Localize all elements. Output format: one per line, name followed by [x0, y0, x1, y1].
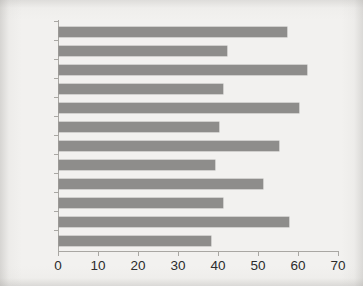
- x-axis-tick: [338, 251, 339, 256]
- y-axis-tick: [54, 97, 59, 98]
- chart-figure: 2012 2010 2008 2006 2004 2002 2000 1998: [0, 0, 363, 286]
- bar: [59, 141, 279, 151]
- x-axis-tick: [98, 251, 99, 256]
- x-axis-tick: [258, 251, 259, 256]
- y-axis-tick: [54, 135, 59, 136]
- x-axis-label: 60: [278, 258, 318, 274]
- x-axis-label: 20: [118, 258, 158, 274]
- x-axis-tick: [178, 251, 179, 256]
- bar: [59, 179, 263, 189]
- bar: [59, 160, 215, 170]
- x-axis-label: 40: [198, 258, 238, 274]
- y-axis-tick: [54, 154, 59, 155]
- y-axis-tick: [54, 21, 59, 22]
- y-axis-tick: [54, 192, 59, 193]
- x-axis-label: 0: [38, 258, 78, 274]
- bar: [59, 217, 289, 227]
- bar: [59, 46, 227, 56]
- x-axis-line: [58, 251, 338, 252]
- y-axis-tick: [54, 230, 59, 231]
- x-axis-tick: [218, 251, 219, 256]
- y-axis-tick: [54, 173, 59, 174]
- y-axis-tick: [54, 59, 59, 60]
- y-axis-tick: [54, 211, 59, 212]
- y-axis-tick: [54, 78, 59, 79]
- x-axis-label: 70: [318, 258, 358, 274]
- x-axis-tick: [298, 251, 299, 256]
- bar: [59, 122, 219, 132]
- x-axis-tick: [58, 251, 59, 256]
- bar: [59, 65, 307, 75]
- x-axis-tick: [138, 251, 139, 256]
- x-axis-label: 50: [238, 258, 278, 274]
- bar: [59, 84, 223, 94]
- y-axis-tick: [54, 116, 59, 117]
- bar: [59, 236, 211, 246]
- x-axis-label: 10: [78, 258, 118, 274]
- bar: [59, 27, 287, 37]
- y-axis-tick: [54, 40, 59, 41]
- x-axis-label: 30: [158, 258, 198, 274]
- bar: [59, 103, 299, 113]
- plot-area: 2012 2010 2008 2006 2004 2002 2000 1998: [0, 0, 363, 286]
- bar: [59, 198, 223, 208]
